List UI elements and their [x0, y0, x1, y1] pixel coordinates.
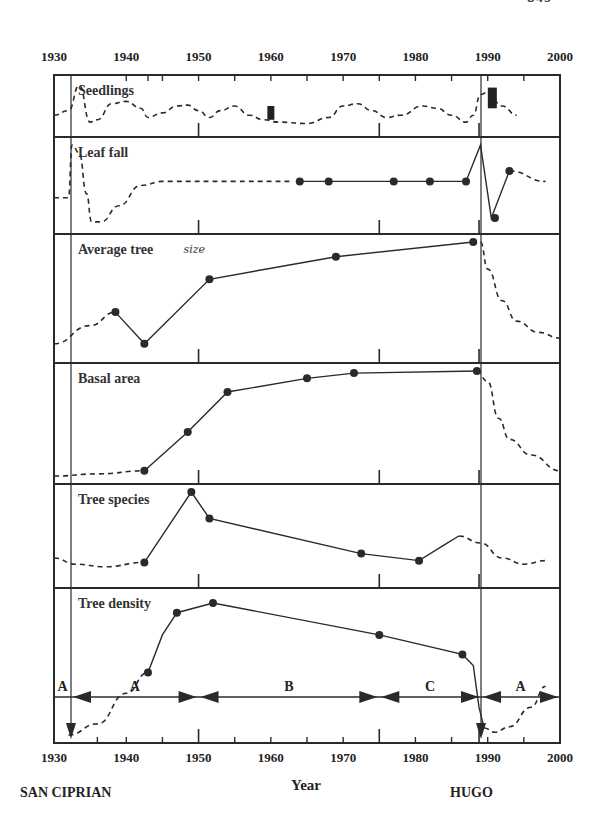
- event-arrowhead: [476, 723, 486, 739]
- event-label: SAN CIPRIAN: [20, 785, 111, 800]
- data-point: [473, 367, 481, 375]
- data-point: [469, 238, 477, 246]
- panel-label: Basal area: [78, 371, 140, 386]
- arrow-right-icon: [461, 691, 479, 703]
- data-point: [111, 308, 119, 316]
- panel-leaf-fall: Leaf fall: [54, 137, 560, 234]
- handwritten-annotation: size: [184, 243, 206, 256]
- arrow-right-icon: [179, 691, 197, 703]
- period-a: A: [73, 679, 197, 703]
- top-tick-label: 1930: [41, 49, 67, 64]
- dashed-trend-line: [54, 558, 144, 567]
- top-x-axis: 19301940195019601970198019902000: [41, 49, 573, 64]
- data-point: [296, 177, 304, 185]
- bottom-tick-label: 2000: [547, 750, 573, 765]
- chart-panels: SeedlingsLeaf fallAverage treesizeBasal …: [54, 75, 560, 743]
- arrow-left-icon: [201, 691, 219, 703]
- dashed-trend-line: [481, 242, 561, 338]
- bottom-tick-label: 1970: [330, 750, 356, 765]
- panel-tree-species: Tree species: [54, 484, 560, 588]
- panel-tree-density: Tree density: [54, 588, 560, 743]
- panel-basal-area: Basal area: [54, 363, 560, 484]
- period-a: A: [483, 679, 558, 703]
- dashed-trend-line: [509, 171, 545, 182]
- dashed-trend-line: [54, 312, 115, 344]
- data-point: [462, 177, 470, 185]
- bottom-tick-label: 1950: [186, 750, 212, 765]
- period-label: A: [515, 679, 526, 694]
- arrow-left-icon: [381, 691, 399, 703]
- multi-panel-chart: 19301940195019601970198019902000 Seedlin…: [0, 0, 609, 837]
- data-point: [205, 275, 213, 283]
- data-point: [173, 609, 181, 617]
- data-point: [458, 650, 466, 658]
- period-b: B: [201, 679, 378, 703]
- panel-label: Tree species: [78, 492, 150, 507]
- bottom-tick-label: 1930: [41, 750, 67, 765]
- top-tick-label: 1940: [113, 49, 139, 64]
- period-label: C: [425, 679, 435, 694]
- data-point: [325, 177, 333, 185]
- panel-label: Tree density: [78, 596, 151, 611]
- data-point: [140, 340, 148, 348]
- data-point: [357, 550, 365, 558]
- top-tick-label: 1970: [330, 49, 356, 64]
- arrow-left-icon: [483, 691, 501, 703]
- data-point: [375, 631, 383, 639]
- data-point: [303, 374, 311, 382]
- data-point: [415, 557, 423, 565]
- panel-label: Leaf fall: [78, 145, 128, 160]
- x-axis-label: Year: [291, 777, 321, 793]
- period-label: A: [130, 679, 141, 694]
- top-tick-label: 1990: [475, 49, 501, 64]
- measured-line: [148, 603, 484, 728]
- seedling-bar: [267, 106, 274, 120]
- dashed-trend-line: [459, 536, 546, 564]
- data-point: [140, 558, 148, 566]
- measured-line: [144, 492, 458, 562]
- data-point: [184, 428, 192, 436]
- data-point: [140, 467, 148, 475]
- bottom-x-axis: 19301940195019601970198019902000: [41, 737, 573, 765]
- arrow-left-icon: [73, 691, 91, 703]
- data-point: [144, 668, 152, 676]
- bottom-tick-label: 1940: [113, 750, 139, 765]
- panel-seedlings: Seedlings: [54, 75, 524, 137]
- top-tick-label: 1950: [186, 49, 212, 64]
- top-tick-label: 1960: [258, 49, 284, 64]
- panel-label: Seedlings: [78, 83, 135, 98]
- chart-frame: [54, 75, 560, 743]
- data-point: [505, 167, 513, 175]
- bottom-tick-label: 1980: [402, 750, 428, 765]
- seedling-bar: [488, 88, 497, 109]
- period-label: B: [284, 679, 293, 694]
- top-tick-label: 2000: [547, 49, 573, 64]
- data-point: [332, 253, 340, 261]
- measured-line: [144, 371, 477, 471]
- dashed-trend-line: [477, 371, 560, 471]
- data-point: [491, 214, 499, 222]
- dashed-trend-line: [54, 471, 144, 476]
- data-point: [350, 369, 358, 377]
- arrow-right-icon: [359, 691, 377, 703]
- data-point: [426, 177, 434, 185]
- panel-average-tree: Average treesize: [54, 234, 560, 363]
- panel-label: Average tree: [78, 242, 153, 257]
- top-tick-label: 1980: [402, 49, 428, 64]
- data-point: [390, 177, 398, 185]
- period-a: A: [57, 679, 68, 694]
- period-label: A: [57, 679, 68, 694]
- data-point: [209, 599, 217, 607]
- data-point: [223, 388, 231, 396]
- data-point: [187, 488, 195, 496]
- bottom-tick-label: 1960: [258, 750, 284, 765]
- arrow-right-icon: [540, 691, 558, 703]
- period-arrows: AABCA: [54, 679, 560, 703]
- period-c: C: [381, 679, 479, 703]
- bottom-tick-label: 1990: [475, 750, 501, 765]
- event-label: HUGO: [450, 785, 493, 800]
- event-arrowhead: [66, 723, 76, 739]
- measured-line: [115, 242, 473, 344]
- data-point: [205, 514, 213, 522]
